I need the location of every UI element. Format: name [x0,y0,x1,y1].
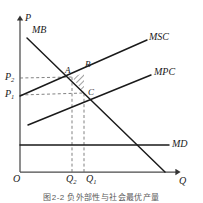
curve-label-MB: MB [32,25,46,35]
y-tick-p1: P1 [5,89,14,99]
x-axis-label: Q [179,176,186,186]
point-label-B: B [85,60,91,69]
guide-p1-to-c [20,93,84,95]
point-label-C: C [88,88,94,97]
curve-label-MSC: MSC [149,32,169,42]
y-tick-p1-sub: 1 [11,93,14,100]
x-tick-q1: Q1 [86,174,96,184]
curve-MPC [28,75,151,125]
y-tick-p2-sub: 2 [11,76,14,83]
diagram-canvas [0,0,203,203]
x-tick-q2-sub: 2 [73,178,76,185]
curve-MB [27,38,165,172]
x-tick-q1-sub: 1 [93,178,96,185]
economics-diagram-figure: P Q O P2 P1 Q2 Q1 MB MSC MPC MD A B C 图2… [0,0,203,203]
figure-caption: 图2-2 负外部性与社会最优产量 [0,191,203,203]
x-tick-q2: Q2 [66,174,76,184]
curves-group [20,38,169,172]
curve-label-MD: MD [172,139,188,149]
curve-label-MPC: MPC [154,67,175,77]
y-axis-label: P [25,13,31,23]
y-tick-p2: P2 [5,72,14,82]
origin-label: O [13,174,20,184]
point-label-A: A [65,66,71,75]
